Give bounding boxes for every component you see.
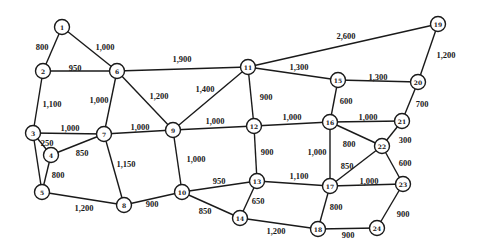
node-6: 6 — [110, 64, 125, 79]
edge-weight-label: 650 — [252, 196, 265, 206]
edge-weight-label: 1,100 — [42, 99, 61, 109]
edge-weight-label: 1,000 — [359, 176, 378, 186]
edge-16-22 — [330, 122, 382, 146]
node-2: 2 — [36, 64, 51, 79]
edge-weight-label: 850 — [341, 161, 354, 171]
node-id-label: 3 — [31, 130, 35, 137]
edges-layer — [33, 24, 438, 229]
node-14: 14 — [233, 211, 248, 226]
node-id-label: 17 — [326, 183, 334, 190]
edge-7-8 — [104, 134, 124, 205]
node-10: 10 — [175, 185, 190, 200]
node-id-label: 12 — [250, 123, 258, 130]
edge-weight-label: 1,000 — [130, 122, 149, 132]
edge-weight-label: 900 — [397, 209, 410, 219]
node-18: 18 — [311, 222, 326, 237]
node-id-label: 16 — [326, 119, 334, 126]
node-id-label: 1 — [60, 24, 64, 31]
edge-19-20 — [418, 24, 438, 82]
edge-13-17 — [257, 181, 330, 186]
node-19: 19 — [431, 17, 446, 32]
edge-weight-label: 1,000 — [282, 112, 301, 122]
edge-weight-label: 700 — [416, 99, 429, 109]
edge-weight-label: 850 — [76, 148, 89, 158]
edge-weight-label: 900 — [342, 230, 355, 240]
node-id-label: 5 — [40, 189, 44, 196]
node-11: 11 — [241, 60, 256, 75]
edge-weight-label: 300 — [399, 135, 412, 145]
node-id-label: 21 — [398, 118, 406, 125]
edge-weight-label: 1,000 — [186, 154, 205, 164]
node-id-label: 23 — [399, 181, 407, 188]
edge-3-7 — [33, 133, 104, 134]
edge-weight-label: 1,900 — [172, 54, 191, 64]
edge-weight-label: 1,200 — [149, 91, 168, 101]
edge-weight-label: 1,200 — [266, 226, 285, 236]
edge-weight-label: 900 — [146, 199, 159, 209]
node-9: 9 — [166, 123, 181, 138]
edge-weight-label: 850 — [199, 206, 212, 216]
node-21: 21 — [395, 114, 410, 129]
edge-18-24 — [318, 228, 377, 229]
edge-weight-label: 1,000 — [358, 112, 377, 122]
edge-weight-label: 2,600 — [336, 31, 355, 41]
edge-weight-label: 1,000 — [205, 116, 224, 126]
node-22: 22 — [375, 139, 390, 154]
edge-weight-label: 1,400 — [195, 84, 214, 94]
node-id-label: 11 — [244, 64, 252, 71]
edge-weight-label: 800 — [330, 202, 343, 212]
node-id-label: 15 — [334, 77, 342, 84]
edge-weight-label: 900 — [261, 147, 274, 157]
edge-weight-label: 800 — [52, 170, 65, 180]
edge-weight-label: 1,200 — [436, 50, 455, 60]
node-id-label: 18 — [314, 226, 322, 233]
edge-weight-label: 1,100 — [289, 171, 308, 181]
node-16: 16 — [323, 115, 338, 130]
node-id-label: 4 — [49, 152, 53, 159]
node-5: 5 — [35, 185, 50, 200]
edge-6-11 — [117, 67, 248, 71]
edge-9-12 — [173, 126, 254, 130]
node-4: 4 — [44, 148, 59, 163]
node-id-label: 7 — [102, 131, 106, 138]
node-7: 7 — [97, 127, 112, 142]
edge-weight-label: 1,150 — [116, 159, 135, 169]
node-id-label: 10 — [178, 189, 186, 196]
edge-weight-label: 1,000 — [89, 95, 108, 105]
edge-9-10 — [173, 130, 182, 192]
node-23: 23 — [396, 177, 411, 192]
edge-weight-label: 600 — [340, 96, 353, 106]
edge-weight-label: 600 — [399, 158, 412, 168]
node-id-label: 22 — [378, 143, 386, 150]
node-3: 3 — [26, 126, 41, 141]
node-id-label: 20 — [414, 79, 422, 86]
edge-weight-label: 1,300 — [289, 62, 308, 72]
edge-weight-label: 1,000 — [60, 123, 79, 133]
edge-weight-label: 800 — [343, 139, 356, 149]
edge-weight-label: 1,200 — [74, 203, 93, 213]
edge-weight-label: 1,000 — [95, 42, 114, 52]
node-id-label: 9 — [171, 127, 175, 134]
node-13: 13 — [250, 174, 265, 189]
node-id-label: 13 — [253, 178, 261, 185]
edge-11-12 — [248, 67, 254, 126]
edge-weight-label: 950 — [213, 176, 226, 186]
edge-weight-label: 250 — [41, 138, 54, 148]
node-id-label: 2 — [41, 68, 45, 75]
edge-12-16 — [254, 122, 330, 126]
edge-weight-label: 950 — [69, 63, 82, 73]
network-diagram: 8001,0009501,1001,0001,9001,2001,0002508… — [0, 0, 479, 247]
edge-weight-label: 900 — [260, 92, 273, 102]
node-20: 20 — [411, 75, 426, 90]
edge-weight-label: 800 — [36, 42, 49, 52]
node-15: 15 — [331, 73, 346, 88]
node-1: 1 — [55, 20, 70, 35]
node-17: 17 — [323, 179, 338, 194]
node-id-label: 14 — [236, 215, 244, 222]
node-id-label: 6 — [115, 68, 119, 75]
edge-weight-label: 1,000 — [307, 147, 326, 157]
node-id-label: 19 — [434, 21, 442, 28]
node-12: 12 — [247, 119, 262, 134]
node-24: 24 — [370, 221, 385, 236]
node-id-label: 24 — [373, 225, 381, 232]
